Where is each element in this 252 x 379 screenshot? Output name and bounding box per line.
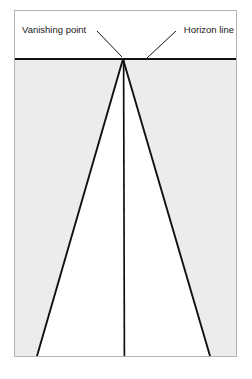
diagram-canvas: Vanishing point Horizon line [0,0,252,379]
sky-region [15,11,236,59]
horizon-line-label: Horizon line [184,24,234,35]
vanishing-point-label: Vanishing point [22,24,87,35]
center-receding-line [124,59,125,356]
perspective-diagram-figure: Vanishing point Horizon line [0,0,252,379]
